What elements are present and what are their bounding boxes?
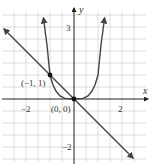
tick-y-neg2: −2: [62, 142, 72, 152]
tick-x-neg2: −2: [21, 104, 31, 114]
tick-x-2: 2: [118, 104, 123, 114]
point-neg1-1: [48, 73, 53, 78]
x-axis-label: x: [142, 85, 148, 96]
point-label-origin: (0, 0): [51, 104, 71, 114]
y-axis-label: y: [78, 4, 84, 15]
line-y-equals-neg-x: [4, 29, 133, 158]
point-label-neg1-1: (−1, 1): [21, 78, 46, 88]
graph: x y −2 2 3 −2 (−1, 1) (0, 0): [0, 0, 155, 167]
point-origin: [72, 97, 77, 102]
tick-y-3: 3: [66, 23, 71, 33]
